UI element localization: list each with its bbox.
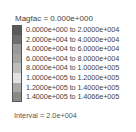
legend-entry: 6.0000e+004 to 8.0000e+004 (12, 54, 136, 64)
color-swatch (12, 92, 22, 102)
color-swatch (12, 54, 22, 64)
color-swatch (12, 83, 22, 93)
range-label: 4.0000e+004 to 6.0000e+004 (26, 44, 119, 54)
legend-entry: 2.0000e+004 to 4.0000e+004 (12, 35, 136, 45)
range-label: 8.0000e+004 to 1.0000e+005 (26, 63, 119, 73)
legend-entry: 1.4000e+005 to 1.4066e+005 (12, 92, 136, 102)
color-swatch (12, 25, 22, 35)
legend-entry: 4.0000e+004 to 6.0000e+004 (12, 44, 136, 54)
range-label: 0.0000e+000 to 2.0000e+004 (26, 25, 119, 35)
color-swatch (12, 44, 22, 54)
range-label: 6.0000e+004 to 8.0000e+004 (26, 54, 119, 64)
color-swatch (12, 73, 22, 83)
color-swatch (12, 63, 22, 73)
color-swatch (12, 35, 22, 45)
legend-entry: 8.0000e+004 to 1.0000e+005 (12, 63, 136, 73)
contour-legend: Magfac = 0.000e+000 0.0000e+000 to 2.000… (0, 0, 136, 132)
range-label: 1.4000e+005 to 1.4066e+005 (26, 92, 119, 102)
legend-entry: 1.2000e+005 to 1.4000e+005 (12, 83, 136, 93)
range-label: 2.0000e+004 to 4.0000e+004 (26, 35, 119, 45)
legend-title: Magfac = 0.000e+000 (15, 14, 93, 23)
range-label: 1.2000e+005 to 1.4000e+005 (26, 83, 119, 93)
interval-label: Interval = 2.0e+004 (14, 111, 77, 120)
legend-entry: 1.0000e+005 to 1.2000e+005 (12, 73, 136, 83)
range-label: 1.0000e+005 to 1.2000e+005 (26, 73, 119, 83)
legend-entries: 0.0000e+000 to 2.0000e+004 2.0000e+004 t… (12, 25, 136, 102)
legend-entry: 0.0000e+000 to 2.0000e+004 (12, 25, 136, 35)
